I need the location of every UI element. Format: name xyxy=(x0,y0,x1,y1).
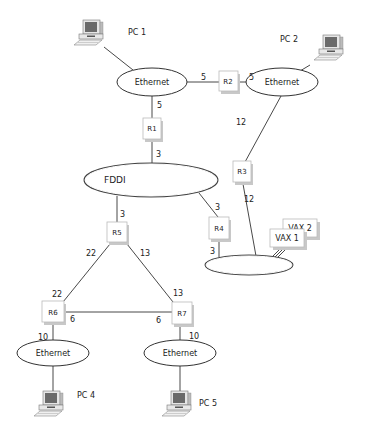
pc4-label: PC 4 xyxy=(77,391,95,400)
fddi-label: FDDI xyxy=(104,175,126,185)
eth4-label: Ethernet xyxy=(36,349,70,358)
network-eth1[interactable]: Ethernet xyxy=(117,68,187,96)
network-eth2[interactable]: Ethernet xyxy=(246,68,318,96)
r2-label: R2 xyxy=(223,78,232,86)
computer-icon xyxy=(314,35,343,60)
cost-r5-r6: 22 xyxy=(86,249,96,258)
router-r3[interactable]: R3 xyxy=(233,161,253,185)
pc1-label: PC 1 xyxy=(128,28,146,37)
cost-r7-r6: 6 xyxy=(156,316,161,325)
pc5-label: PC 5 xyxy=(199,399,217,408)
cost-r1-fddi: 3 xyxy=(156,150,161,159)
r4-label: R4 xyxy=(214,225,224,233)
cost-r7-r5: 13 xyxy=(173,289,183,298)
eth5-label: Ethernet xyxy=(163,349,197,358)
cost-fddi-r5: 3 xyxy=(120,210,125,219)
cost-r6-r7: 6 xyxy=(70,315,75,324)
network-eth5[interactable]: Ethernet xyxy=(144,340,216,366)
cost-fddi-r4: 3 xyxy=(215,203,220,212)
router-r7[interactable]: R7 xyxy=(172,302,194,327)
link-pc1-eth1 xyxy=(104,47,133,70)
cost-r6-r5: 22 xyxy=(52,290,62,299)
vax1-label: VAX 1 xyxy=(275,234,299,243)
eth2-label: Ethernet xyxy=(265,78,299,87)
network-diagram: PC 1 PC 2 PC 4 PC 5 Ethernet Ethernet FD… xyxy=(0,0,368,445)
router-r6[interactable]: R6 xyxy=(42,301,66,325)
pc4[interactable] xyxy=(34,391,63,416)
pc5[interactable] xyxy=(162,391,191,416)
link-eth2-r3 xyxy=(245,96,281,162)
link-costs: 5 5 5 3 12 12 3 3 3 22 22 13 13 6 6 10 1… xyxy=(38,73,254,342)
cost-r7-eth5: 10 xyxy=(189,332,199,341)
pc2[interactable] xyxy=(314,35,343,60)
router-r4[interactable]: R4 xyxy=(209,217,231,242)
cost-eth2-r3: 12 xyxy=(236,118,246,127)
cost-r6-eth4: 10 xyxy=(38,333,48,342)
cost-r2-eth2: 5 xyxy=(249,73,254,82)
pc2-label: PC 2 xyxy=(280,35,298,44)
network-fddi[interactable]: FDDI xyxy=(85,164,217,196)
network-eth4[interactable]: Ethernet xyxy=(17,340,89,366)
r1-label: R1 xyxy=(147,125,156,133)
computer-icon xyxy=(162,391,191,416)
r5-label: R5 xyxy=(112,229,121,237)
router-r5[interactable]: R5 xyxy=(107,222,129,245)
computer-icon xyxy=(74,20,103,45)
eth1-label: Ethernet xyxy=(135,78,169,87)
computer-icon xyxy=(34,391,63,416)
r6-label: R6 xyxy=(48,309,58,317)
vax-ring-inner xyxy=(206,256,292,274)
pc1[interactable] xyxy=(74,20,103,45)
r3-label: R3 xyxy=(237,168,246,176)
cost-eth1-r2: 5 xyxy=(201,73,206,82)
router-r2[interactable]: R2 xyxy=(219,71,240,94)
host-vax1[interactable]: VAX 1 xyxy=(270,229,307,250)
cost-r4-ring: 3 xyxy=(210,247,215,256)
r7-label: R7 xyxy=(177,310,186,318)
router-r1[interactable]: R1 xyxy=(143,118,163,142)
cost-r5-r7: 13 xyxy=(140,249,150,258)
network-vax-ring[interactable] xyxy=(206,256,292,274)
cost-eth1-r1: 5 xyxy=(157,101,162,110)
cost-r3-ring: 12 xyxy=(244,195,254,204)
